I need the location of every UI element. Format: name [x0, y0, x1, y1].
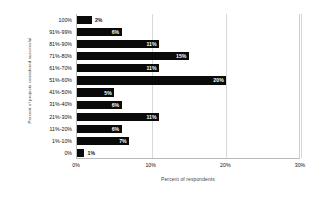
bar[interactable]: 5%: [77, 88, 114, 96]
y-tick-label: 21%-30%: [0, 114, 72, 120]
bar-value-label: 2%: [95, 17, 103, 23]
y-tick-label: 51%-60%: [0, 77, 72, 83]
bar-row: 6%: [77, 101, 299, 109]
bar-value-label: 11%: [146, 65, 156, 71]
y-tick-label: 11%-20%: [0, 126, 72, 132]
y-axis-tick-labels: 100%91%-99%81%-90%71%-80%61%-70%51%-60%4…: [0, 14, 72, 159]
bar-row: 6%: [77, 28, 299, 36]
y-tick-label: 61%-70%: [0, 65, 72, 71]
bar-value-label: 20%: [213, 77, 224, 83]
x-tick-label: 10%: [145, 162, 156, 168]
bar-value-label: 15%: [176, 53, 187, 59]
bar-row: 15%: [77, 52, 299, 60]
bar-row: 2%: [77, 16, 299, 24]
bar-value-label: 11%: [146, 41, 156, 47]
y-tick-label: 31%-40%: [0, 101, 72, 107]
bar-value-label: 1%: [87, 150, 95, 156]
bar-row: 6%: [77, 125, 299, 133]
bar-value-label: 7%: [119, 138, 127, 144]
x-tick-label: 30%: [295, 162, 306, 168]
bar-value-label: 6%: [112, 102, 120, 108]
bar-value-label: 5%: [104, 90, 112, 96]
y-tick-label: 0%: [0, 150, 72, 156]
bar-value-label: 6%: [112, 126, 120, 132]
bar[interactable]: 20%: [77, 76, 226, 84]
bar[interactable]: 11%: [77, 113, 159, 121]
bar-row: 11%: [77, 40, 299, 48]
x-axis-title: Percent of respondents: [76, 176, 300, 182]
bar[interactable]: 6%: [77, 28, 122, 36]
bar[interactable]: [77, 16, 92, 24]
bar-chart: Percent of projects considered successfu…: [0, 0, 323, 199]
x-axis-tick-labels: 0%10%20%30%: [0, 162, 323, 174]
bar-value-label: 6%: [112, 29, 120, 35]
gridline-30%: [301, 14, 302, 158]
x-tick-label: 20%: [220, 162, 231, 168]
plot-area: 2%6%11%15%11%20%5%6%11%6%7%1%: [76, 14, 300, 159]
bar-row: 7%: [77, 137, 299, 145]
y-tick-label: 41%-50%: [0, 89, 72, 95]
bar[interactable]: 15%: [77, 52, 189, 60]
y-tick-label: 100%: [0, 17, 72, 23]
x-tick-label: 0%: [72, 162, 80, 168]
y-tick-label: 1%-10%: [0, 138, 72, 144]
bar[interactable]: 7%: [77, 137, 129, 145]
bar-row: 5%: [77, 88, 299, 96]
bar-value-label: 11%: [146, 114, 156, 120]
bar-row: 11%: [77, 113, 299, 121]
bar-row: 1%: [77, 149, 299, 157]
bar-row: 11%: [77, 64, 299, 72]
y-tick-label: 71%-80%: [0, 53, 72, 59]
bar-row: 20%: [77, 76, 299, 84]
bar[interactable]: 11%: [77, 64, 159, 72]
bar[interactable]: [77, 149, 84, 157]
y-tick-label: 81%-90%: [0, 41, 72, 47]
bar[interactable]: 11%: [77, 40, 159, 48]
bar[interactable]: 6%: [77, 125, 122, 133]
bar[interactable]: 6%: [77, 101, 122, 109]
y-tick-label: 91%-99%: [0, 29, 72, 35]
bar-series: 2%6%11%15%11%20%5%6%11%6%7%1%: [77, 14, 299, 158]
